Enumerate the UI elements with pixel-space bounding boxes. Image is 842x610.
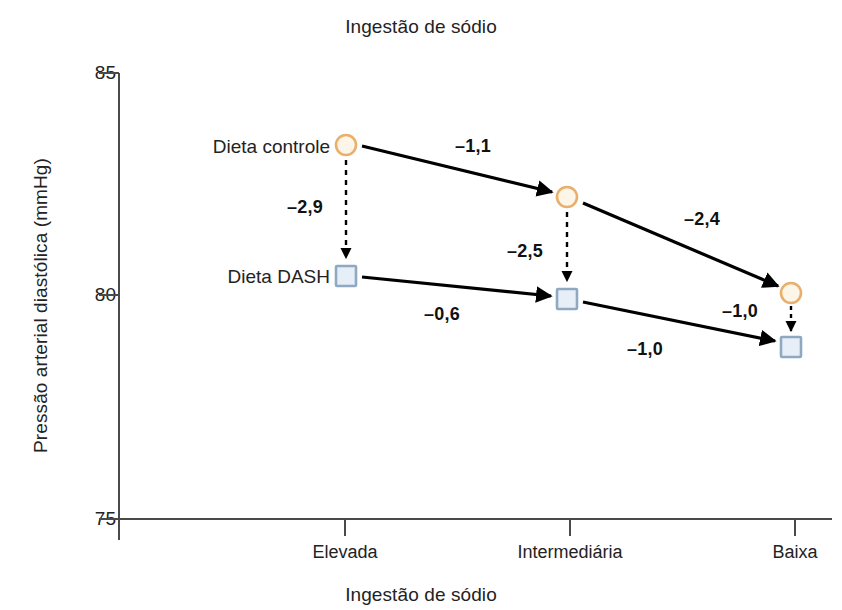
chart-figure: Ingestão de sódio Pressão arterial diast… xyxy=(0,0,842,610)
control-marker-elevada xyxy=(336,135,356,155)
dash-marker-intermediaria xyxy=(557,289,577,309)
y-axis xyxy=(99,73,119,540)
control-markers xyxy=(336,135,801,303)
dash-marker-baixa xyxy=(781,337,801,357)
control-marker-baixa xyxy=(781,283,801,303)
control-series-line xyxy=(362,146,778,286)
dash-markers xyxy=(336,266,801,357)
x-axis xyxy=(100,519,832,536)
chart-canvas xyxy=(0,0,842,610)
control-marker-intermediaria xyxy=(557,187,577,207)
dash-marker-elevada xyxy=(336,266,356,286)
